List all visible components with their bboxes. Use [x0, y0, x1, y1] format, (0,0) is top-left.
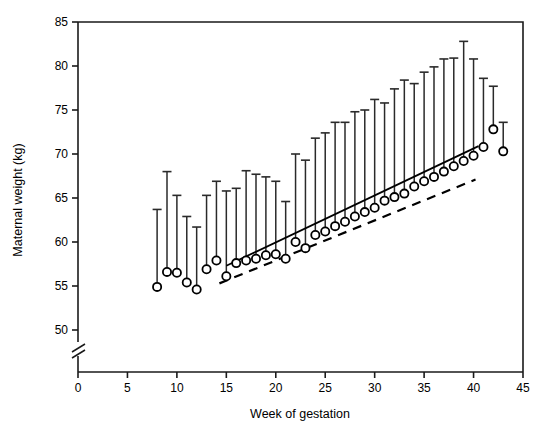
x-tick-label: 45 — [516, 381, 530, 395]
data-point-marker — [212, 256, 220, 264]
data-point-marker — [440, 168, 448, 176]
data-point-marker — [202, 265, 210, 273]
x-tick-label: 10 — [170, 381, 184, 395]
data-point-marker — [321, 227, 329, 235]
x-tick-label: 15 — [220, 381, 234, 395]
y-tick-label: 60 — [55, 235, 69, 249]
data-point-marker — [380, 197, 388, 205]
data-point-marker — [153, 283, 161, 291]
data-point-marker — [430, 173, 438, 181]
data-point-marker — [173, 269, 181, 277]
data-point-marker — [193, 285, 201, 293]
x-tick-label: 30 — [368, 381, 382, 395]
x-tick-label: 5 — [124, 381, 131, 395]
data-point-marker — [222, 272, 230, 280]
data-point-marker — [272, 250, 280, 258]
data-point-marker — [252, 255, 260, 263]
y-axis-title: Maternal weight (kg) — [11, 143, 25, 256]
data-point-marker — [341, 218, 349, 226]
data-point-marker — [420, 177, 428, 185]
y-tick-label: 55 — [55, 279, 69, 293]
x-tick-label: 20 — [269, 381, 283, 395]
chart-figure: 5055606570758085 051015202530354045 Mate… — [0, 0, 548, 431]
data-point-marker — [469, 152, 477, 160]
data-point-marker — [331, 222, 339, 230]
x-axis-title: Week of gestation — [250, 407, 350, 421]
data-point-marker — [410, 182, 418, 190]
x-tick-label: 40 — [467, 381, 481, 395]
y-tick-label: 65 — [55, 191, 69, 205]
data-point-marker — [242, 256, 250, 264]
x-tick-label: 25 — [319, 381, 333, 395]
maternal-weight-scatter-chart: 5055606570758085 051015202530354045 Mate… — [0, 0, 548, 431]
data-point-marker — [361, 208, 369, 216]
data-point-marker — [291, 238, 299, 246]
y-tick-label: 85 — [55, 15, 69, 29]
x-tick-label: 35 — [417, 381, 431, 395]
y-tick-label: 75 — [55, 103, 69, 117]
data-point-marker — [479, 143, 487, 151]
data-point-marker — [400, 190, 408, 198]
data-point-marker — [371, 204, 379, 212]
data-point-marker — [163, 268, 171, 276]
y-tick-label: 70 — [55, 147, 69, 161]
data-point-marker — [262, 251, 270, 259]
data-point-marker — [390, 193, 398, 201]
data-point-marker — [232, 259, 240, 267]
data-point-marker — [183, 278, 191, 286]
data-point-marker — [450, 162, 458, 170]
data-point-marker — [311, 231, 319, 239]
y-tick-label: 80 — [55, 59, 69, 73]
data-point-marker — [460, 157, 468, 165]
x-tick-label: 0 — [75, 381, 82, 395]
data-point-marker — [499, 147, 507, 155]
data-point-marker — [351, 212, 359, 220]
data-point-marker — [489, 125, 497, 133]
data-point-marker — [301, 244, 309, 252]
data-point-marker — [282, 255, 290, 263]
y-tick-label: 50 — [55, 323, 69, 337]
chart-background — [0, 0, 548, 431]
